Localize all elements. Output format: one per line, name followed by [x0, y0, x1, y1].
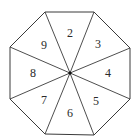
center-dot [68, 71, 71, 74]
spoke [70, 48, 130, 73]
sector-label-4: 4 [105, 66, 111, 80]
sector-label-2: 2 [67, 26, 73, 40]
sector-label-6: 6 [67, 106, 73, 120]
octagon-diagram: 2 3 4 5 6 7 8 9 [0, 0, 138, 139]
sector-label-9: 9 [41, 38, 47, 52]
spoke [70, 12, 94, 73]
sector-label-8: 8 [30, 66, 36, 80]
sector-label-7: 7 [41, 93, 47, 107]
sector-label-3: 3 [95, 37, 101, 51]
sector-label-5: 5 [93, 94, 99, 108]
